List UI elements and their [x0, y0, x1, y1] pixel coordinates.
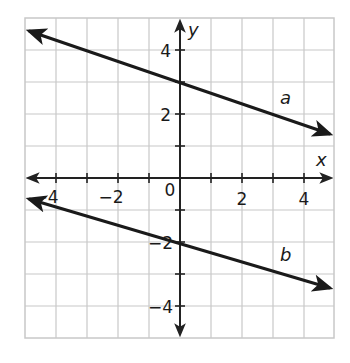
y-axis-label: y — [187, 19, 199, 40]
line-b-label: b — [280, 244, 291, 265]
x-tick-label: 4 — [299, 189, 310, 209]
x-axis-label: x — [315, 149, 327, 170]
line-a-label: a — [280, 87, 291, 108]
x-tick-label: −2 — [98, 187, 123, 207]
x-tick-label: 0 — [165, 180, 176, 200]
y-tick-label: −4 — [148, 297, 173, 317]
y-tick-label: 4 — [160, 41, 171, 61]
y-tick-label: 2 — [160, 105, 171, 125]
x-tick-label: 2 — [237, 189, 248, 209]
coordinate-plane: −4 −2 0 2 4 4 2 −2 −4 y x a b — [0, 0, 350, 363]
